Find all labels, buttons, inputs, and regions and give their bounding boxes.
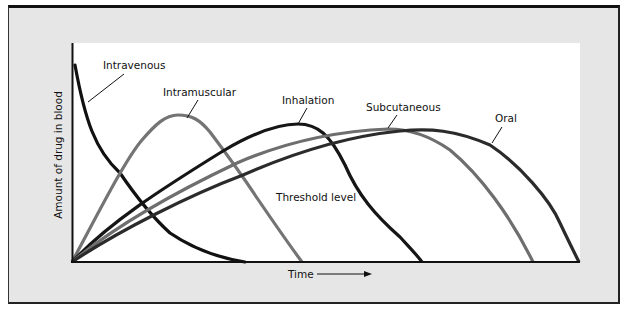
time-arrow-icon: [364, 271, 372, 277]
plot-area: [72, 43, 580, 262]
threshold-label: Threshold level: [275, 191, 356, 203]
label-intramuscular: Intramuscular: [163, 86, 237, 98]
x-axis-label: Time: [287, 268, 314, 280]
label-oral: Oral: [495, 112, 517, 124]
y-axis-label: Amount of drug in blood: [52, 91, 64, 219]
drug-absorption-chart: Intravenous Intramuscular Inhalation Sub…: [0, 0, 631, 314]
label-inhalation: Inhalation: [282, 94, 334, 106]
label-intravenous: Intravenous: [103, 59, 166, 71]
label-subcutaneous: Subcutaneous: [366, 101, 441, 113]
